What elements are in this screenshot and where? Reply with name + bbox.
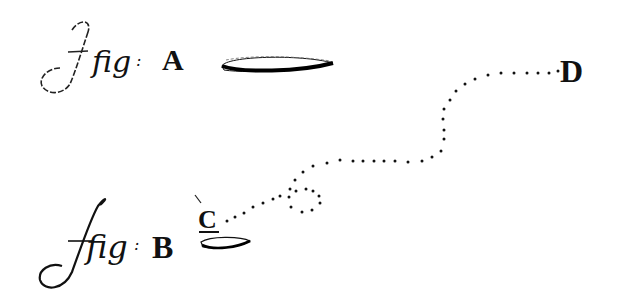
point-c: C	[195, 195, 219, 234]
fig-b-separator: :	[134, 235, 139, 254]
fig-b-caption: fig : B	[40, 199, 174, 287]
fig-b-prefix: fig	[84, 228, 128, 266]
fig-b-ellipse	[201, 237, 250, 248]
point-d-label: D	[560, 53, 583, 89]
fig-a-f-crossbar	[68, 51, 88, 52]
fig-b-label: B	[152, 229, 173, 265]
point-c-tick	[195, 195, 201, 203]
fig-a-separator: :	[136, 51, 141, 70]
fig-a-ellipse	[222, 57, 333, 72]
fig-a-prefix: fig	[90, 44, 131, 79]
fig-a-label: A	[162, 43, 184, 76]
figure-canvas: fig : A fig : B C D	[0, 0, 617, 308]
fig-a-f-flourish	[41, 22, 89, 93]
fig-a-caption: fig : A	[41, 22, 184, 93]
point-c-label: C	[198, 205, 217, 234]
dotted-trajectory	[226, 70, 560, 223]
figure-drawing: fig : A fig : B C D	[0, 0, 617, 308]
